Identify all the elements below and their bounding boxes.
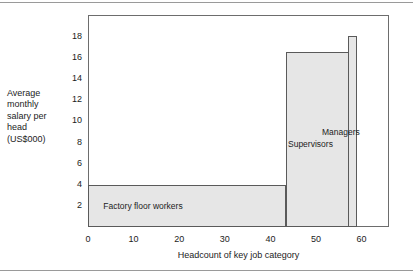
x-tick-40: 40 xyxy=(258,235,282,244)
x-tick-50: 50 xyxy=(304,235,328,244)
y-tick-6: 6 xyxy=(60,159,82,168)
y-tick-14: 14 xyxy=(60,74,82,83)
y-axis-title-line: salary per xyxy=(7,111,79,122)
y-axis-title-line: Average xyxy=(7,88,79,99)
bar-label-supervisors: Supervisors xyxy=(288,140,333,149)
y-axis-title-line: monthly xyxy=(7,99,79,110)
y-axis-title: Averagemonthlysalary perhead(US$000) xyxy=(7,88,79,145)
y-tick-16: 16 xyxy=(60,53,82,62)
bar-chart-figure: 24681012141618 0102030405060 Factory flo… xyxy=(0,0,413,279)
x-tick-60: 60 xyxy=(350,235,374,244)
x-axis-title: Headcount of key job category xyxy=(88,250,389,260)
x-tick-30: 30 xyxy=(213,235,237,244)
y-tick-4: 4 xyxy=(60,180,82,189)
y-tick-18: 18 xyxy=(60,32,82,41)
bar-label-factory-floor-workers: Factory floor workers xyxy=(0,202,286,211)
y-axis-title-line: head xyxy=(7,122,79,133)
x-tick-20: 20 xyxy=(167,235,191,244)
x-tick-0: 0 xyxy=(76,235,100,244)
x-tick-10: 10 xyxy=(122,235,146,244)
y-axis-title-line: (US$000) xyxy=(7,134,79,145)
bar-label-managers: Managers xyxy=(322,128,360,137)
